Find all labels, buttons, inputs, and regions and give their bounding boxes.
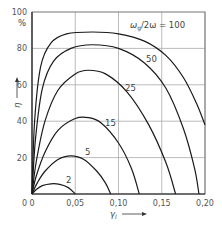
curve-label-25: 25: [125, 83, 136, 93]
curve-label-50: 50: [146, 54, 157, 64]
x-tick-label: 0,15: [153, 199, 171, 208]
curve-label-5: 5: [85, 147, 90, 157]
x-tick-label: 0,20: [196, 199, 214, 208]
y-tick-label: 40: [17, 117, 27, 126]
curve-label-2: 2: [66, 175, 71, 185]
svg-text:γl: γl: [110, 209, 117, 220]
grid: [32, 12, 205, 194]
y-tick-label: 20: [17, 154, 27, 163]
svg-text:η: η: [12, 102, 22, 108]
curve-label-15: 15: [105, 118, 116, 128]
tick-labels: 00,050,100,150,20020406080100: [12, 8, 214, 208]
x-tick-label: 0,05: [66, 199, 84, 208]
legend-label: ωg/2ω = 100: [130, 20, 185, 32]
y-unit-label: %: [18, 18, 26, 28]
y-tick-label: 100: [12, 8, 27, 17]
x-tick-label: 0: [29, 199, 34, 208]
y-tick-label: 60: [17, 81, 27, 90]
x-tick-label: 0,10: [110, 199, 128, 208]
curve-2: [32, 184, 75, 194]
x-axis-label: γl: [110, 209, 147, 220]
curve-25: [32, 70, 176, 194]
y-tick-label: 0: [22, 199, 27, 208]
y-tick-label: 80: [17, 44, 27, 53]
efficiency-chart: 00,050,100,150,20020406080100 % η γl ωg/…: [0, 0, 222, 228]
